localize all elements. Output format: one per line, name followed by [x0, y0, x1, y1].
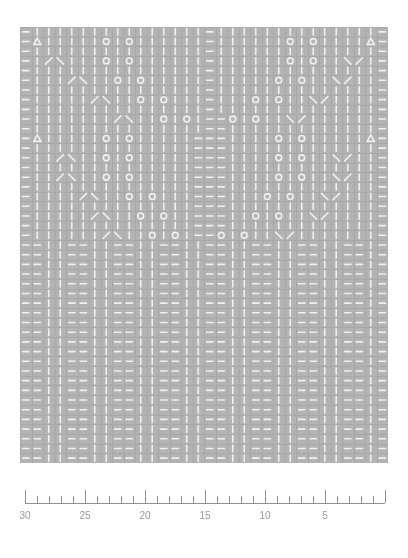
measurement-ruler	[0, 470, 408, 530]
stitch-chart	[20, 27, 388, 463]
measurement-ruler-canvas	[0, 470, 408, 530]
stitch-chart-canvas	[20, 27, 388, 463]
